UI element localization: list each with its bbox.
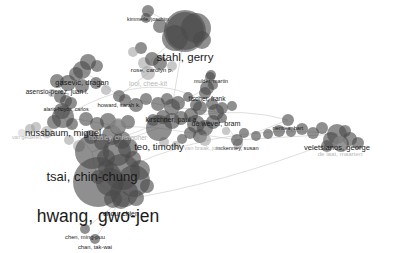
network-node[interactable] [128, 190, 144, 206]
node-label[interactable]: tsai, chin-chung [46, 170, 137, 183]
node-label[interactable]: rose, carolyn p. [131, 67, 173, 73]
node-label[interactable]: gasevic, dragan [55, 79, 109, 87]
network-node[interactable] [199, 134, 211, 146]
node-label[interactable]: rienties, bart [273, 127, 304, 133]
node-label[interactable]: chou, chien [103, 210, 139, 217]
network-node[interactable] [251, 131, 261, 141]
node-label[interactable]: de laat, maarten [318, 151, 363, 157]
node-label[interactable]: looi, chee-kit [129, 81, 167, 88]
node-label[interactable]: kimmerle, joachim [127, 18, 169, 23]
network-node[interactable] [231, 134, 243, 146]
network-map-canvas[interactable]: kimmerle, joachimstahl, gerryrose, carol… [0, 0, 401, 253]
node-label[interactable]: van gelderen, ... [12, 135, 48, 140]
node-label[interactable]: chen, ming-puu [65, 235, 105, 241]
network-node[interactable] [263, 129, 273, 139]
node-label[interactable]: de wever, bram [191, 121, 240, 128]
node-label[interactable]: teo, timothy [134, 142, 184, 152]
node-label[interactable]: van braak, johan [184, 147, 225, 153]
node-label[interactable]: hwang, gwo-jen [37, 208, 160, 226]
node-label[interactable]: asensio-perez, juan i. [26, 89, 89, 96]
node-label[interactable]: stahl, gerry [157, 52, 214, 64]
node-label[interactable]: mulder, martin [194, 80, 228, 85]
network-node[interactable] [142, 5, 154, 17]
node-label[interactable]: fischer, frank [189, 96, 226, 103]
network-node[interactable] [282, 114, 294, 126]
network-node[interactable] [73, 61, 91, 79]
network-node[interactable] [110, 118, 126, 134]
network-node[interactable] [140, 179, 154, 193]
network-node[interactable] [208, 104, 224, 120]
network-node[interactable] [164, 10, 206, 52]
network-node[interactable] [128, 47, 138, 57]
node-label[interactable]: alario-hoyos, carlos [44, 108, 89, 113]
node-label[interactable]: howard, sarah k. [98, 103, 141, 109]
node-label[interactable]: chan, tak-wai [78, 245, 112, 251]
network-node[interactable] [113, 90, 125, 102]
network-node[interactable] [91, 60, 103, 72]
network-node[interactable] [227, 101, 237, 111]
network-node[interactable] [164, 99, 180, 115]
